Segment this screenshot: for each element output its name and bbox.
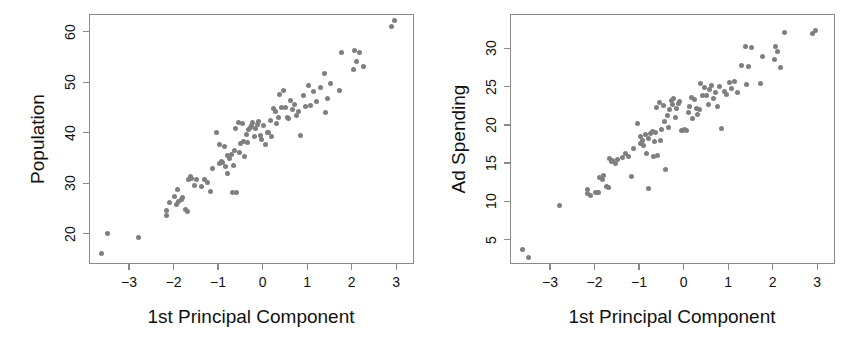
y-tick-label: 5: [483, 236, 499, 244]
y-tick-mark: [83, 82, 89, 83]
y-tick-label: 40: [62, 125, 78, 141]
axis-layer-ad-spending: 51015202530−3−2−10123: [431, 0, 862, 343]
y-tick-mark: [504, 124, 510, 125]
x-tick-label: −3: [121, 274, 137, 290]
x-tick-label: 0: [259, 274, 267, 290]
x-tick-label: 2: [769, 274, 777, 290]
x-tick-mark: [128, 264, 129, 270]
y-tick-label: 30: [62, 175, 78, 191]
x-tick-label: 0: [680, 274, 688, 290]
x-tick-label: 1: [303, 274, 311, 290]
x-tick-label: −2: [165, 274, 181, 290]
x-axis-title-population: 1st Principal Component: [148, 306, 355, 328]
y-tick-mark: [504, 48, 510, 49]
x-tick-mark: [396, 264, 397, 270]
axis-layer-population: 2030405060−3−2−10123: [0, 0, 431, 343]
y-tick-label: 15: [483, 155, 499, 171]
x-axis-title-ad-spending: 1st Principal Component: [569, 306, 776, 328]
y-axis-title-ad-spending: Ad Spending: [448, 85, 470, 194]
y-tick-mark: [83, 132, 89, 133]
x-tick-mark: [817, 264, 818, 270]
x-tick-label: −1: [631, 274, 647, 290]
panel-population: 2030405060−3−2−10123 Population 1st Prin…: [0, 0, 431, 343]
x-tick-mark: [307, 264, 308, 270]
y-tick-label: 25: [483, 79, 499, 95]
panel-ad-spending: 51015202530−3−2−10123 Ad Spending 1st Pr…: [431, 0, 862, 343]
y-axis-title-population: Population: [27, 94, 49, 184]
y-tick-label: 50: [62, 74, 78, 90]
x-tick-mark: [683, 264, 684, 270]
x-tick-label: −3: [542, 274, 558, 290]
x-tick-mark: [728, 264, 729, 270]
x-tick-label: 2: [348, 274, 356, 290]
x-tick-mark: [638, 264, 639, 270]
y-tick-label: 60: [62, 24, 78, 40]
x-tick-mark: [262, 264, 263, 270]
x-tick-mark: [217, 264, 218, 270]
y-tick-mark: [83, 183, 89, 184]
y-tick-label: 20: [62, 226, 78, 242]
x-tick-mark: [594, 264, 595, 270]
x-tick-label: 1: [724, 274, 732, 290]
y-tick-label: 30: [483, 40, 499, 56]
y-tick-mark: [504, 239, 510, 240]
x-tick-mark: [351, 264, 352, 270]
x-tick-label: 3: [392, 274, 400, 290]
y-tick-mark: [83, 233, 89, 234]
y-tick-mark: [504, 86, 510, 87]
x-tick-mark: [549, 264, 550, 270]
y-tick-mark: [83, 31, 89, 32]
x-tick-mark: [173, 264, 174, 270]
x-tick-mark: [772, 264, 773, 270]
x-tick-label: −2: [586, 274, 602, 290]
y-tick-mark: [504, 162, 510, 163]
y-tick-label: 10: [483, 193, 499, 209]
x-tick-label: −1: [210, 274, 226, 290]
y-tick-label: 20: [483, 117, 499, 133]
y-tick-mark: [504, 201, 510, 202]
x-tick-label: 3: [813, 274, 821, 290]
pca-scatterplot-figure: 2030405060−3−2−10123 Population 1st Prin…: [0, 0, 862, 343]
